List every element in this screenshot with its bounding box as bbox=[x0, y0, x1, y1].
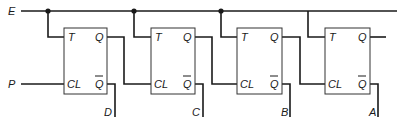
output-label-d: D bbox=[104, 106, 112, 118]
q-label: Q bbox=[270, 31, 279, 43]
input-label-e: E bbox=[8, 5, 16, 17]
output-label-b: B bbox=[281, 106, 288, 118]
cl-label: CL bbox=[154, 78, 168, 90]
q-to-cl-wire-2 bbox=[195, 37, 237, 84]
cl-label: CL bbox=[240, 78, 254, 90]
qbar-label: Q bbox=[95, 78, 104, 90]
flip-flop-4: T Q CL Q A bbox=[325, 28, 376, 118]
q-label: Q bbox=[358, 31, 367, 43]
t-wire-3 bbox=[221, 11, 237, 37]
t-wire-4 bbox=[308, 11, 325, 37]
qbar-label: Q bbox=[270, 78, 279, 90]
output-label-c: C bbox=[192, 106, 200, 118]
qbar-label: Q bbox=[183, 78, 192, 90]
q-label: Q bbox=[95, 31, 104, 43]
cl-label: CL bbox=[328, 78, 342, 90]
cl-label: CL bbox=[67, 78, 81, 90]
flip-flop-3: T Q CL Q B bbox=[237, 28, 288, 118]
t-wire-1 bbox=[48, 11, 64, 37]
input-label-p: P bbox=[8, 78, 16, 90]
output-label-a: A bbox=[368, 106, 376, 118]
counter-circuit-diagram: E P T Q CL Q D T Q CL Q C T bbox=[0, 0, 397, 125]
q-to-cl-wire-1 bbox=[107, 37, 151, 84]
q-label: Q bbox=[183, 31, 192, 43]
q-to-cl-wire-3 bbox=[282, 37, 325, 84]
flip-flop-2: T Q CL Q C bbox=[151, 28, 200, 118]
t-wire-2 bbox=[134, 11, 151, 37]
qbar-label: Q bbox=[358, 78, 367, 90]
flip-flop-1: T Q CL Q D bbox=[64, 28, 112, 118]
